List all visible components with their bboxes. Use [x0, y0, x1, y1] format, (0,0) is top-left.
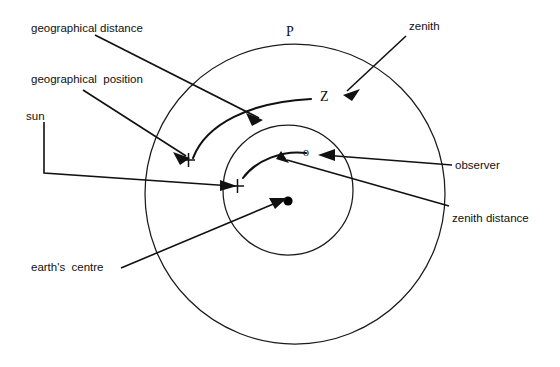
label-earths-centre: earth's centre: [31, 261, 104, 274]
marker-label-observer-o: o: [303, 146, 309, 159]
label-geographical-position: geographical position: [31, 73, 143, 86]
zenith-meridian-arc: [193, 99, 311, 158]
label-observer: observer: [455, 159, 500, 172]
inner-earth-circle: [223, 125, 353, 255]
leader-observer: [323, 155, 452, 165]
leader-zenith: [347, 36, 406, 91]
zenith-distance-arc: [243, 152, 306, 178]
leader-sun: [44, 122, 232, 186]
leader-zenith-distance: [287, 160, 449, 206]
label-zenith-distance: zenith distance: [452, 212, 529, 225]
diagram-vector-layer: [0, 0, 560, 367]
earths-centre-dot: [283, 196, 292, 205]
leader-geographical-position: [83, 90, 186, 156]
outer-celestial-circle: [145, 44, 445, 344]
label-geographical-distance: geographical distance: [31, 22, 143, 35]
marker-label-zenith-z: Z: [320, 89, 329, 104]
leader-observer-arrowhead: [318, 149, 335, 161]
label-sun: sun: [26, 110, 45, 123]
diagram-canvas: geographical distance geographical posit…: [0, 0, 560, 367]
label-zenith: zenith: [409, 20, 440, 33]
leader-zenith-arrowhead: [343, 89, 360, 101]
marker-label-pole-p: P: [286, 24, 294, 39]
leader-sun-arrowhead: [220, 180, 237, 191]
